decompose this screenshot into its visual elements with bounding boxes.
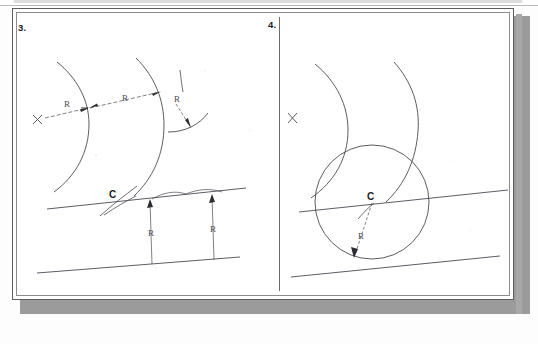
- panel-3-number: 3.: [18, 22, 26, 33]
- panel-divider: [279, 17, 280, 291]
- scanned-page: 3. 4.: [0, 0, 538, 344]
- panel-4-number: 4.: [268, 19, 276, 30]
- page-top-crop-band: [14, 0, 522, 3]
- worksheet-sheet: [12, 8, 514, 300]
- worksheet-inner-border: [16, 12, 510, 296]
- sheet-side-shadow: [516, 14, 522, 314]
